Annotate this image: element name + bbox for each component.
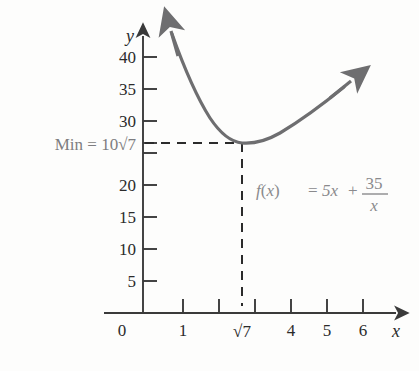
- axes-group: [104, 36, 396, 313]
- function-equation-lhs: f(x): [256, 181, 280, 200]
- function-equation-label: f(x) = 5x + 35 x: [256, 174, 388, 215]
- x-tick-labels: 0 1 √7 4 5 6: [118, 321, 368, 341]
- y-tick-label-30: 30: [119, 112, 136, 131]
- x-tick-label-4: 4: [287, 321, 296, 340]
- minimum-guides: [145, 143, 242, 306]
- y-tick-label-5: 5: [128, 272, 137, 291]
- y-tick-label-40: 40: [119, 48, 136, 67]
- function-curve-group: [171, 31, 351, 143]
- y-tick-label-35: 35: [119, 80, 136, 99]
- fn-plus-sign: +: [348, 181, 358, 200]
- function-curve-left-branch: [172, 34, 344, 143]
- origin-label: 0: [118, 321, 127, 340]
- y-axis-label: y: [124, 26, 134, 46]
- fn-paren-close: ): [274, 181, 280, 200]
- x-tick-label-6: 6: [359, 321, 368, 340]
- y-tick-label-10: 10: [119, 240, 136, 259]
- fn-fraction-numerator: 35: [366, 174, 383, 193]
- y-axis-ticks: [143, 57, 157, 281]
- curve-right-arrow: [330, 81, 351, 98]
- y-tick-labels: 40 35 30 20 15 10 5: [119, 48, 136, 291]
- graph-figure: 40 35 30 20 15 10 5 Min = 10√7 0 1 √7 4 …: [0, 0, 419, 371]
- x-tick-label-5: 5: [323, 321, 332, 340]
- x-tick-label-sqrt7: √7: [233, 322, 251, 341]
- y-tick-label-20: 20: [119, 176, 136, 195]
- fn-equals-sign: =: [308, 181, 318, 200]
- x-axis-ticks: [183, 299, 363, 313]
- fn-fraction-denominator: x: [369, 196, 378, 215]
- function-plot-svg: 40 35 30 20 15 10 5 Min = 10√7 0 1 √7 4 …: [0, 0, 419, 371]
- y-tick-label-15: 15: [119, 208, 136, 227]
- minimum-value-label: Min = 10√7: [55, 135, 137, 154]
- x-axis-label: x: [391, 321, 400, 341]
- x-tick-label-1: 1: [179, 321, 188, 340]
- fn-linear-term: 5x: [322, 181, 339, 200]
